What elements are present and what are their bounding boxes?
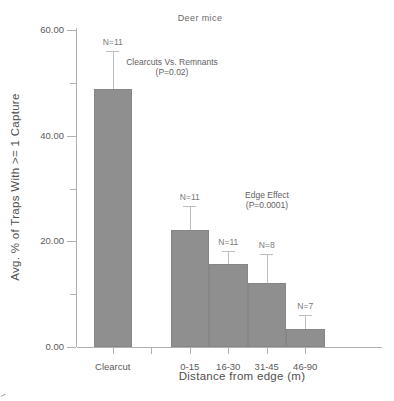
error-bar-line — [305, 315, 306, 329]
x-tick — [267, 348, 268, 354]
bar-clearcut — [94, 89, 133, 347]
error-bar-cap — [106, 51, 119, 52]
n-label: N=11 — [170, 192, 210, 202]
y-minor-tick — [70, 189, 76, 190]
error-bar-line — [228, 251, 229, 264]
n-label: N=8 — [247, 240, 287, 250]
bar-0-15 — [171, 230, 210, 347]
error-bar-line — [267, 254, 268, 283]
error-bar-cap — [260, 254, 273, 255]
x-tick — [305, 348, 306, 354]
x-tick — [113, 348, 114, 354]
y-minor-tick — [70, 294, 76, 295]
x-tick — [228, 348, 229, 354]
bar-31-45 — [248, 283, 287, 347]
y-major-tick — [67, 241, 76, 242]
x-category-label: 46-90 — [280, 361, 330, 372]
y-major-tick — [67, 136, 76, 137]
y-tick-label: 0.00 — [26, 341, 64, 352]
n-label: N=11 — [208, 237, 248, 247]
x-tick — [151, 348, 152, 354]
y-tick-label: 40.00 — [26, 130, 64, 141]
bar-46-90 — [286, 329, 325, 347]
y-axis-line — [76, 28, 77, 347]
error-bar-line — [190, 206, 191, 230]
y-major-tick — [67, 347, 76, 348]
deer-mice-bar-chart: Deer mice Clearcuts Vs. Remnants (P=0.02… — [0, 0, 394, 401]
error-bar-line — [113, 51, 114, 89]
x-tick — [190, 348, 191, 354]
x-axis-line — [77, 347, 382, 348]
x-category-label: Clearcut — [88, 361, 138, 372]
error-bar-cap — [222, 251, 235, 252]
n-label: N=7 — [285, 301, 325, 311]
n-label: N=11 — [93, 37, 133, 47]
y-major-tick — [67, 30, 76, 31]
plot-area: 0.0020.0040.0060.00N=11ClearcutN=110-15N… — [0, 0, 394, 401]
y-tick-label: 60.00 — [26, 24, 64, 35]
bar-16-30 — [209, 264, 248, 347]
y-tick-label: 20.00 — [26, 235, 64, 246]
error-bar-cap — [183, 206, 196, 207]
error-bar-cap — [299, 315, 312, 316]
y-minor-tick — [70, 83, 76, 84]
